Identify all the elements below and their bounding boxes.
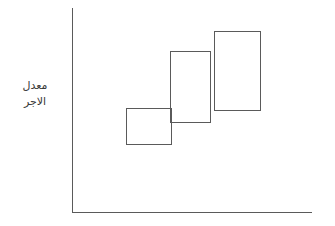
figure-canvas: معدل الاجر bbox=[0, 0, 335, 226]
y-axis-label-line-1: معدل bbox=[4, 78, 66, 94]
x-axis-line bbox=[72, 212, 312, 213]
step-rectangle-2 bbox=[170, 51, 211, 123]
step-rectangle-1 bbox=[126, 108, 172, 145]
y-axis-line bbox=[72, 8, 73, 213]
y-axis-label: معدل الاجر bbox=[4, 78, 66, 110]
y-axis-label-line-2: الاجر bbox=[4, 94, 66, 110]
step-rectangle-3 bbox=[214, 31, 261, 111]
